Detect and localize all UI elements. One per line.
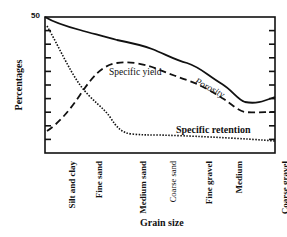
porosity-line — [45, 17, 275, 103]
specific-retention-annotation: Specific retention — [176, 124, 251, 135]
x-category-coarse-gravel: Coarse gravel — [280, 161, 287, 214]
left-ticks — [45, 31, 51, 140]
x-category-medium-sand: Medium sand — [138, 161, 148, 214]
x-category-fine-gravel: Fine gravel — [204, 161, 214, 204]
x-axis-label: Grain size — [140, 217, 184, 228]
specific-yield-annotation: Specific yield — [109, 67, 162, 77]
y-axis-label: Percentages — [13, 60, 24, 111]
x-category-medium: Medium — [233, 161, 243, 194]
y-tick-50: 50 — [31, 11, 40, 20]
x-category-fine-sand: Fine sand — [94, 161, 104, 198]
x-category-coarse-sand: Coarse sand — [168, 161, 178, 202]
x-category-silt-and-clay: Silt and clay — [68, 161, 78, 209]
right-ticks — [269, 31, 275, 140]
